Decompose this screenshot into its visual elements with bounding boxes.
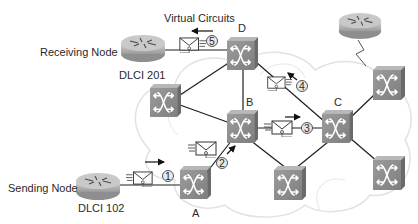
switch-a-label: A: [192, 208, 199, 219]
switch-bottom-right: [373, 156, 405, 190]
frame-envelope-5: [180, 38, 206, 53]
sending-dlci-label: DLCI 102: [78, 203, 124, 214]
receiving-node-label: Receiving Node: [40, 47, 118, 58]
diagram-title: Virtual Circuits: [164, 13, 235, 24]
receiving-dlci-label: DLCI 201: [119, 70, 165, 81]
switch-left: [150, 84, 181, 117]
switch-a: [180, 166, 211, 199]
switch-b: [227, 110, 258, 143]
serial-link: [356, 40, 366, 66]
switch-bottom-middle: [274, 166, 306, 200]
switch-d-label: D: [238, 23, 246, 34]
receiving-router-icon: [121, 35, 165, 62]
frame-relay-virtual-circuit-diagram: Virtual Circuits D B C A Receiving Node …: [0, 0, 418, 224]
step-1-number: 1: [165, 171, 171, 182]
step-2-number: 2: [219, 158, 225, 169]
switch-top-right: [373, 66, 405, 100]
switch-b-label: B: [246, 97, 253, 108]
remote-router-icon: [339, 13, 381, 39]
switch-c: [322, 110, 353, 143]
switch-c-label: C: [334, 97, 342, 108]
step-5-number: 5: [209, 36, 215, 47]
switch-d: [227, 37, 258, 70]
step-3-number: 3: [304, 123, 310, 134]
sending-router-icon: [76, 173, 120, 200]
step-4-number: 4: [299, 81, 305, 92]
sending-node-label: Sending Node: [8, 183, 78, 194]
